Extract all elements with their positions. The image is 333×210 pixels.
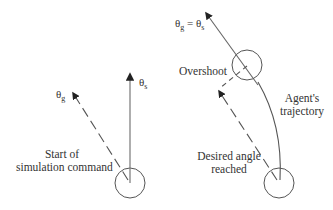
label-line: reached	[190, 163, 268, 176]
desired-angle-label: Desired angle reached	[190, 150, 268, 176]
label-line: trajectory	[276, 105, 328, 118]
overshoot-label: Overshoot	[179, 65, 227, 78]
start-of-simulation-label: Start of simulation command	[16, 148, 108, 174]
label-line: Agent's	[276, 92, 328, 105]
desired-angle-circle	[264, 168, 294, 198]
overshoot-circle	[232, 50, 262, 80]
label-line: Start of	[16, 148, 108, 161]
label-line: Desired angle	[190, 150, 268, 163]
theta-subscript: s	[201, 23, 204, 32]
theta-g-label: θg	[56, 88, 65, 103]
theta-subscript: s	[144, 82, 147, 91]
theta-equality-label: θg = θs	[175, 17, 204, 32]
theta-subscript: g	[61, 94, 65, 103]
label-line: simulation command	[16, 161, 108, 174]
left-panel	[73, 74, 145, 198]
agent-trajectory-label: Agent's trajectory	[276, 92, 328, 118]
equals-sign: =	[184, 17, 196, 29]
theta-s-label: θs	[139, 76, 147, 91]
